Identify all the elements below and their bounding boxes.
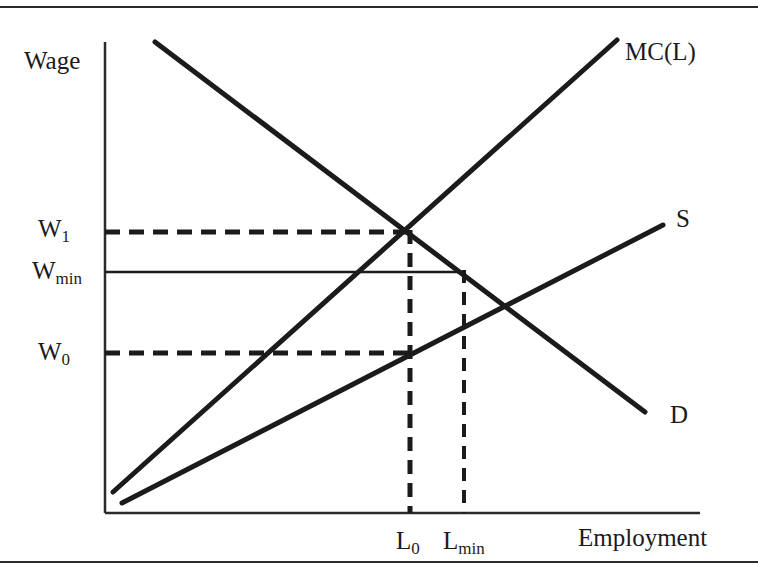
w0-base: W xyxy=(38,338,62,365)
economics-diagram-figure: Wage Employment W1 Wmin W0 L0 Lmin MC(L)… xyxy=(0,0,758,586)
x-tick-label-lmin: Lmin xyxy=(443,528,485,557)
wmin-base: W xyxy=(32,257,56,284)
x-tick-label-l0: L0 xyxy=(396,528,420,557)
supply-curve-label: S xyxy=(676,206,690,231)
lmin-subscript: min xyxy=(458,539,484,558)
w0-subscript: 0 xyxy=(62,350,71,369)
w1-base: W xyxy=(38,215,62,242)
demand-curve xyxy=(155,42,645,412)
y-axis-title: Wage xyxy=(24,48,80,73)
wmin-subscript: min xyxy=(56,269,82,288)
marginal-cost-curve xyxy=(113,40,617,492)
l0-subscript: 0 xyxy=(411,539,420,558)
x-axis-title: Employment xyxy=(578,525,707,550)
l0-base: L xyxy=(396,527,411,554)
demand-curve-label: D xyxy=(670,402,688,427)
w1-subscript: 1 xyxy=(62,227,71,246)
plot-canvas xyxy=(0,0,758,586)
y-tick-label-wmin: Wmin xyxy=(32,258,82,287)
lmin-base: L xyxy=(443,527,458,554)
marginal-cost-curve-label: MC(L) xyxy=(625,39,696,64)
y-tick-label-w1: W1 xyxy=(38,216,70,245)
y-tick-label-w0: W0 xyxy=(38,339,70,368)
